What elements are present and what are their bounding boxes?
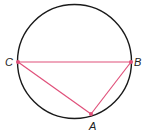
segment-ca [18,62,91,114]
point-a-marker [89,112,93,116]
point-b-label: B [134,56,141,68]
diagram-svg: A B C [0,0,148,134]
point-b-marker [129,60,133,64]
diagram-canvas: A B C [0,0,148,134]
point-c-marker [16,60,20,64]
point-a-label: A [88,120,96,132]
point-c-label: C [5,56,13,68]
